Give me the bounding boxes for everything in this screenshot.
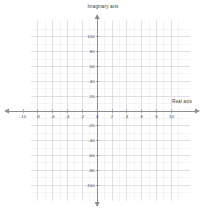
y-tick-label: 40 bbox=[79, 79, 95, 84]
coordinate-grid bbox=[0, 0, 205, 214]
y-tick-label: 80 bbox=[79, 49, 95, 54]
y-tick-label: 100 bbox=[79, 34, 95, 39]
x-tick-label: 0 bbox=[89, 114, 105, 119]
y-tick-label: -100 bbox=[79, 183, 95, 188]
x-tick-label: 8 bbox=[149, 114, 165, 119]
y-tick-label: -40 bbox=[79, 138, 95, 143]
real-axis-arrow-left bbox=[4, 108, 9, 113]
x-tick-label: -6 bbox=[45, 114, 61, 119]
real-axis-arrow-right bbox=[195, 108, 200, 113]
x-tick-label: -2 bbox=[74, 114, 90, 119]
x-tick-label: 6 bbox=[134, 114, 150, 119]
y-tick-label: -20 bbox=[79, 123, 95, 128]
x-tick-label: 10 bbox=[163, 114, 179, 119]
complex-plane-chart: Imaginary axis Real axis -10-8-6-4-20246… bbox=[0, 0, 205, 214]
x-tick-label: 2 bbox=[104, 114, 120, 119]
x-tick-label: -8 bbox=[30, 114, 46, 119]
real-axis-title: Real axis bbox=[172, 99, 205, 104]
imaginary-axis-arrow-up bbox=[95, 14, 100, 19]
x-tick-label: -10 bbox=[15, 114, 31, 119]
imaginary-axis-arrow-down bbox=[95, 202, 100, 207]
x-tick-label: -4 bbox=[60, 114, 76, 119]
x-tick-label: 4 bbox=[119, 114, 135, 119]
imaginary-axis-title: Imaginary axis bbox=[73, 4, 133, 9]
y-tick-label: -80 bbox=[79, 168, 95, 173]
y-tick-label: 60 bbox=[79, 64, 95, 69]
y-tick-label: -60 bbox=[79, 153, 95, 158]
y-tick-label: 20 bbox=[79, 94, 95, 99]
